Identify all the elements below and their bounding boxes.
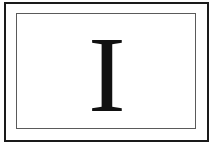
letter-card: I xyxy=(0,0,218,146)
letter-glyph: I xyxy=(88,21,126,129)
